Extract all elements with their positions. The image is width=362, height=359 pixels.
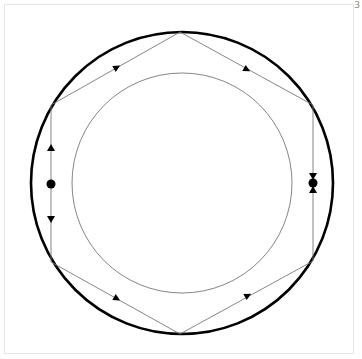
arrow-icon bbox=[112, 63, 122, 73]
inner-circle bbox=[72, 73, 292, 293]
hexagon-orbit bbox=[51, 32, 313, 334]
fixed-point-left bbox=[47, 180, 56, 189]
arrow-down-icon bbox=[47, 216, 55, 223]
fixed-point-right bbox=[309, 179, 318, 188]
outer-circle bbox=[31, 32, 333, 334]
phase-diagram bbox=[0, 0, 362, 359]
arrow-icon bbox=[112, 294, 122, 304]
arrow-up-icon bbox=[47, 144, 55, 151]
arrow-icon bbox=[242, 65, 252, 75]
edge-arrows bbox=[47, 63, 317, 304]
